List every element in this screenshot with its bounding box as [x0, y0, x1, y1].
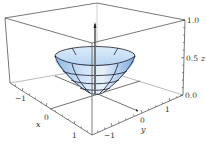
z-axis-label: z	[200, 54, 206, 63]
y-tick-label-neg1: −1	[104, 131, 115, 140]
z-tick-label-05: 0.5	[186, 54, 198, 63]
paraboloid-3d-plot: −1 0 1 x −1 0 1 y 1.0 0.5 0.0 z	[0, 0, 206, 149]
y-tick-label-1: 1	[165, 105, 170, 114]
z-tick-label-1: 1.0	[187, 16, 199, 25]
x-tick-label-neg1: −1	[15, 94, 26, 103]
y-axis-ticks	[98, 97, 178, 133]
x-tick-label-0: 0	[44, 113, 49, 122]
y-tick-label-0: 0	[140, 116, 145, 125]
z-tick-label-0: 0.0	[185, 91, 197, 100]
x-tick-label-1: 1	[72, 131, 77, 140]
y-axis-label: y	[140, 125, 146, 134]
x-axis-label: x	[36, 120, 41, 129]
